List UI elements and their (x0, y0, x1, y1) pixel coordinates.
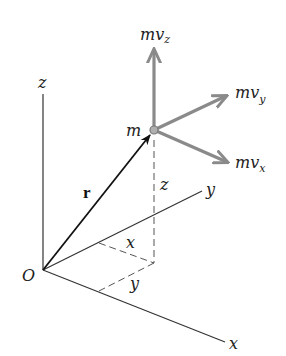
mvz-subscript: z (163, 33, 170, 46)
mvy-label: mvy (235, 83, 266, 106)
particle-label: m (126, 121, 141, 140)
y-axis-label: y (205, 180, 216, 199)
z-axis-label: z (37, 73, 47, 92)
particle-m (150, 126, 158, 134)
mvx-subscript: x (259, 162, 266, 175)
momentum-arrows (154, 50, 227, 162)
mvz-label: mvz (140, 25, 170, 46)
z-coordinate-label: z (159, 175, 169, 194)
mvy-arrow (154, 96, 226, 130)
projection-lines (99, 140, 154, 291)
x-coordinate-label: x (126, 233, 135, 252)
mvz-base: mv (140, 25, 164, 44)
x-axis-label: x (229, 334, 238, 353)
mvy-subscript: y (258, 93, 266, 106)
mvx-base: mv (235, 153, 259, 172)
y-coordinate-label: y (129, 274, 140, 293)
mvx-label: mvx (235, 153, 266, 175)
diagram-canvas: z O y x r m z x y mvz mvy mvx (0, 0, 286, 356)
momentum-diagram: z O y x r m z x y mvz mvy mvx (0, 0, 286, 356)
y-axis (43, 191, 202, 270)
mvy-base: mv (235, 83, 259, 102)
y-projection-dashed (99, 263, 154, 291)
mvx-arrow (154, 130, 227, 162)
position-vector-label: r (83, 183, 91, 202)
origin-label: O (22, 266, 35, 285)
